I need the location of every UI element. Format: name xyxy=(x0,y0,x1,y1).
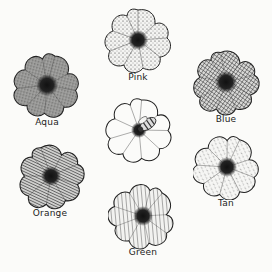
flower-sparse-hatch-icon xyxy=(108,182,178,250)
flower-blue xyxy=(191,47,261,117)
label-tan: Tan xyxy=(218,198,234,208)
flower-dashed-icon xyxy=(193,134,261,200)
label-orange: Orange xyxy=(33,208,67,218)
flower-dotted-icon xyxy=(103,5,173,75)
flower-bee-icon xyxy=(104,96,174,164)
flower-green xyxy=(108,182,178,250)
flower-aqua xyxy=(12,50,82,120)
label-pink: Pink xyxy=(128,72,147,82)
flower-diagram: Pink Aqua Blue xyxy=(0,0,272,272)
flower-pink xyxy=(103,5,173,75)
flower-dense-hatch-icon xyxy=(16,141,86,211)
flower-tan xyxy=(193,134,261,200)
label-green: Green xyxy=(129,247,157,257)
flower-crosshatch-icon xyxy=(191,47,261,117)
flower-orange xyxy=(16,141,86,211)
label-aqua: Aqua xyxy=(35,117,59,127)
flower-stippled-icon xyxy=(12,50,82,120)
label-blue: Blue xyxy=(216,114,237,124)
flower-center-with-bee xyxy=(104,96,174,164)
